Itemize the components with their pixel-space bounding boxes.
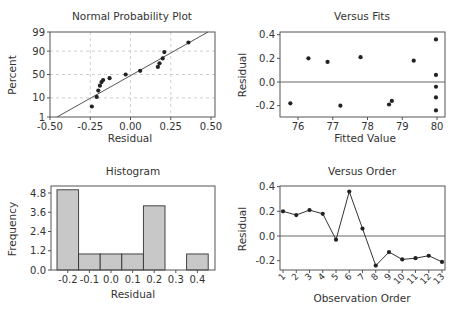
order-x-axis-label: Observation Order <box>313 292 411 304</box>
fits-x-tick-label: 76 <box>292 121 305 132</box>
order-y-tick-label: 0.2 <box>259 206 275 217</box>
hist-x-tick-label: -0.2 <box>58 274 78 285</box>
order-point <box>427 254 431 258</box>
fits-point <box>434 73 438 77</box>
order-x-tick-label: 1 <box>276 271 287 282</box>
npp-y-axis-label: Percent <box>6 55 18 95</box>
order-point <box>321 212 325 216</box>
npp-x-tick-label: 0.50 <box>200 121 222 132</box>
hist-y-tick-label: 2.4 <box>30 226 46 237</box>
hist-y-tick-label: 1.2 <box>30 245 46 256</box>
order-y-tick-label: 0.4 <box>259 181 275 192</box>
npp-point <box>161 56 165 60</box>
order-x-tick-label: 7 <box>356 271 367 282</box>
fits-point <box>434 85 438 89</box>
hist-bar <box>79 254 101 270</box>
fits-point <box>434 37 438 41</box>
fits-y-ticks: -0.20.00.20.4 <box>255 29 280 111</box>
hist-title: Histogram <box>106 165 160 177</box>
npp-point <box>138 69 142 73</box>
hist-bar <box>143 206 165 270</box>
hist-x-tick-label: 0.0 <box>103 274 119 285</box>
fits-point <box>358 55 362 59</box>
fits-point <box>387 102 391 106</box>
npp-point <box>101 78 105 82</box>
hist-bar <box>122 254 144 270</box>
fits-point <box>338 104 342 108</box>
order-point <box>347 190 351 194</box>
order-x-ticks: 12345678910111213 <box>276 270 446 287</box>
histogram-panel: Histogram 0.01.22.43.64.8 -0.2-0.10.00.1… <box>6 165 215 300</box>
hist-bar <box>187 254 209 270</box>
order-point <box>360 227 364 231</box>
npp-point <box>107 76 111 80</box>
fits-y-tick-label: 0.4 <box>259 29 275 40</box>
residual-plots-svg: Normal Probability Plot 110509099 -0.50-… <box>0 0 456 312</box>
order-x-tick-label: 8 <box>369 271 380 282</box>
npp-point <box>157 61 161 65</box>
hist-x-tick-label: -0.1 <box>80 274 100 285</box>
npp-y-tick-label: 99 <box>32 27 45 38</box>
order-series-line <box>281 190 444 268</box>
order-y-ticks: -0.20.00.20.4 <box>255 181 280 266</box>
npp-point <box>156 65 160 69</box>
fits-x-tick-label: 80 <box>431 121 444 132</box>
fits-point <box>412 59 416 63</box>
fits-point <box>325 60 329 64</box>
fits-y-tick-label: 0.2 <box>259 53 275 64</box>
fits-x-tick-label: 77 <box>326 121 339 132</box>
npp-y-tick-label: 10 <box>32 92 45 103</box>
npp-x-ticks: -0.50-0.250.000.250.50 <box>37 117 222 132</box>
npp-x-tick-label: -0.50 <box>37 121 63 132</box>
order-point <box>307 208 311 212</box>
versus-order-panel: Versus Order -0.20.00.20.4 1234567891011… <box>236 165 446 304</box>
order-point <box>281 209 285 213</box>
fits-point <box>390 99 394 103</box>
hist-x-tick-label: 0.4 <box>189 274 205 285</box>
npp-point <box>186 40 190 44</box>
versus-fits-panel: Versus Fits -0.20.00.20.4 7677787980 Fit… <box>236 10 445 144</box>
fits-frame <box>280 32 445 117</box>
hist-x-tick-label: 0.3 <box>168 274 184 285</box>
npp-point <box>95 95 99 99</box>
order-point <box>294 213 298 217</box>
hist-y-axis-label: Frequency <box>6 202 18 256</box>
fits-x-ticks: 7677787980 <box>292 117 444 132</box>
hist-bar <box>57 190 79 270</box>
npp-fit-line <box>57 32 208 117</box>
order-x-tick-label: 4 <box>316 271 327 282</box>
npp-x-axis-label: Residual <box>108 132 152 144</box>
fits-point <box>434 95 438 99</box>
hist-x-tick-label: 0.1 <box>125 274 141 285</box>
npp-x-tick-label: 0.00 <box>119 121 141 132</box>
npp-y-tick-label: 50 <box>32 69 45 80</box>
npp-x-tick-label: 0.25 <box>160 121 182 132</box>
order-title: Versus Order <box>328 165 397 177</box>
hist-y-tick-label: 3.6 <box>30 207 46 218</box>
npp-point <box>124 72 128 76</box>
order-y-tick-label: 0.0 <box>259 231 275 242</box>
npp-point <box>162 50 166 54</box>
fits-x-tick-label: 79 <box>396 121 409 132</box>
order-point <box>413 256 417 260</box>
npp-y-ticks: 110509099 <box>32 27 50 123</box>
npp-x-tick-label: -0.25 <box>77 121 103 132</box>
order-point <box>374 264 378 268</box>
fits-point <box>288 101 292 105</box>
order-point <box>334 238 338 242</box>
residual-plots-figure: Normal Probability Plot 110509099 -0.50-… <box>0 0 456 312</box>
hist-y-ticks: 0.01.22.43.64.8 <box>30 188 51 276</box>
hist-y-tick-label: 4.8 <box>30 188 46 199</box>
fits-x-tick-label: 78 <box>361 121 374 132</box>
fits-y-axis-label: Residual <box>236 53 248 97</box>
npp-y-tick-label: 90 <box>32 46 45 57</box>
hist-x-ticks: -0.2-0.10.00.10.20.30.4 <box>58 270 205 285</box>
fits-point <box>306 56 310 60</box>
order-x-tick-label: 6 <box>343 271 354 282</box>
hist-x-axis-label: Residual <box>111 288 155 300</box>
fits-title: Versus Fits <box>334 10 390 22</box>
npp-title: Normal Probability Plot <box>72 10 192 22</box>
fits-x-axis-label: Fitted Value <box>334 132 396 144</box>
hist-x-tick-label: 0.2 <box>146 274 162 285</box>
hist-bars <box>57 190 208 270</box>
